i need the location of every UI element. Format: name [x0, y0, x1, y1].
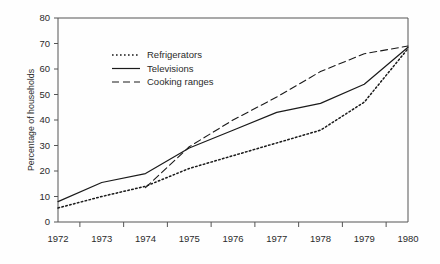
x-tick-label: 1973 [91, 233, 112, 244]
x-tick-label: 1979 [354, 233, 375, 244]
y-tick-label: 20 [39, 165, 50, 176]
y-tick-label: 70 [39, 38, 50, 49]
y-tick-label: 40 [39, 114, 50, 125]
y-tick-label: 80 [39, 12, 50, 23]
line-chart: 01020304050607080 1972197319741975197619… [0, 0, 440, 264]
y-axis-title: Percentage of households [26, 68, 36, 171]
series-line-refrigerators [58, 49, 408, 208]
y-tick-label: 10 [39, 191, 50, 202]
data-series-group [58, 46, 408, 208]
x-tick-label: 1975 [179, 233, 200, 244]
legend-label: Refrigerators [147, 49, 202, 60]
x-tick-label: 1974 [135, 233, 156, 244]
y-tick-label: 0 [45, 216, 50, 227]
x-tick-label: 1980 [397, 233, 418, 244]
y-tick-label: 60 [39, 63, 50, 74]
x-axis-ticks [80, 222, 386, 227]
y-tick-label: 50 [39, 89, 50, 100]
y-axis-tick-labels: 01020304050607080 [39, 12, 50, 227]
legend-label: Televisions [147, 63, 194, 74]
x-tick-label: 1978 [310, 233, 331, 244]
y-axis-ticks [54, 18, 58, 222]
x-axis-tick-labels: 197219731974197519761977197819791980 [47, 233, 418, 244]
chart-legend: RefrigeratorsTelevisionsCooking ranges [112, 49, 214, 87]
x-tick-label: 1976 [222, 233, 243, 244]
legend-label: Cooking ranges [147, 76, 214, 87]
y-tick-label: 30 [39, 140, 50, 151]
chart-canvas: 01020304050607080 1972197319741975197619… [0, 0, 440, 264]
x-tick-label: 1972 [47, 233, 68, 244]
series-line-televisions [58, 47, 408, 201]
x-tick-label: 1977 [266, 233, 287, 244]
